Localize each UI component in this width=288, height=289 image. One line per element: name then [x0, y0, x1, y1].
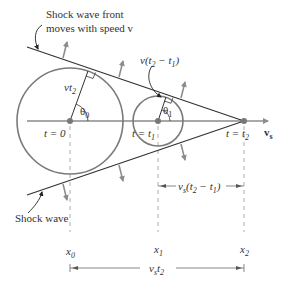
- source-point-t0: [67, 118, 73, 124]
- source-point-t1: [155, 118, 161, 124]
- shock-front-label-line2: moves with speed v: [46, 22, 134, 34]
- front-normal-arrow-4: [63, 184, 67, 200]
- front-normal-arrow-2: [119, 61, 123, 77]
- x1-label: x1: [153, 243, 163, 258]
- shock-wave-label: Shock wave: [15, 212, 69, 224]
- front-callout-arrow: [35, 25, 42, 49]
- front-normal-arrow-5: [119, 165, 123, 181]
- t0-label: t = 0: [44, 127, 66, 139]
- shock-front-label-line1: Shock wave front: [46, 8, 124, 20]
- front-normal-arrow-6: [181, 144, 185, 160]
- vs-label: vs: [264, 126, 273, 141]
- source-point-t2: [241, 118, 247, 124]
- x0-label: x0: [65, 245, 75, 260]
- dim-arrowheads: [72, 184, 242, 270]
- vt2-label: vt2: [64, 81, 76, 96]
- theta0-label: θ0: [80, 105, 89, 120]
- shock-wave-callout-arrow: [28, 192, 42, 213]
- x2-label: x2: [239, 243, 249, 258]
- shock-wave-diagram: Shock wave front moves with speed v Shoc…: [0, 0, 288, 289]
- front-normal-arrow-3: [181, 82, 185, 98]
- t1-label: t = t1: [132, 127, 155, 142]
- t2-label: t = t2: [226, 127, 249, 142]
- v-t2-t1-label: v(t2 − t1): [140, 54, 180, 69]
- front-normal-arrow-1: [63, 42, 67, 58]
- theta1-label: θ1: [163, 104, 172, 119]
